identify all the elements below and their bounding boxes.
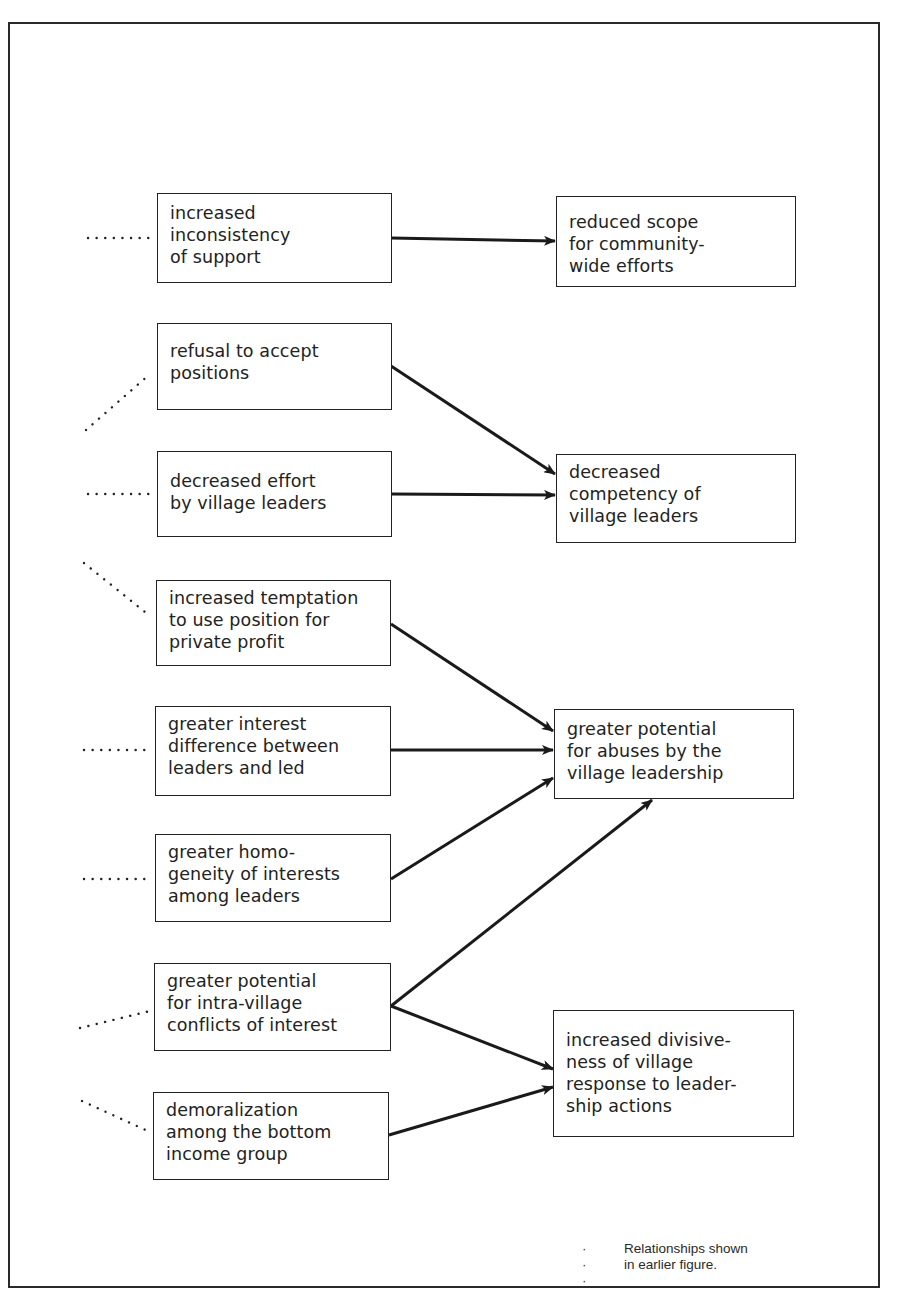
node-text-line: decreased effort [170,470,381,492]
arrow-demoralization-to-divisiveness [389,1087,553,1135]
legend-text: Relationships shown in earlier figure. [624,1241,748,1273]
node-text-line: private profit [169,631,380,653]
node-text-line: for abuses by the [567,740,783,762]
node-text-line: village leadership [567,762,783,784]
node-greater-interest-difference: greater interest difference between lead… [155,706,391,796]
node-text-line: village leaders [569,505,785,527]
legend-line: Relationships shown [624,1241,748,1257]
node-text-line: for intra-village [167,992,380,1014]
node-increased-temptation-private-profit: increased temptation to use position for… [156,580,391,666]
dotted-input-conflicts [80,1011,150,1028]
node-text-line: ship actions [566,1095,783,1117]
arrow-homogeneity-to-abuses [391,778,553,879]
dotted-input-temptation [84,563,150,616]
node-text-line: to use position for [169,609,380,631]
node-text-line: ness of village [566,1051,783,1073]
node-greater-homogeneity-of-interests: greater homo- geneity of interests among… [155,834,391,922]
legend-line: in earlier figure. [624,1257,748,1273]
node-text-line: of support [170,246,381,268]
node-text-line: competency of [569,483,785,505]
node-text-line: increased divisive- [566,1029,783,1051]
node-text-line: greater interest [168,713,380,735]
arrow-effort-to-competency [391,494,555,495]
node-text-line: greater potential [567,718,783,740]
node-greater-potential-for-abuses: greater potential for abuses by the vill… [554,709,794,799]
node-increased-divisiveness: increased divisive- ness of village resp… [553,1010,794,1137]
node-text-line: response to leader- [566,1073,783,1095]
arrow-temptation-to-abuses [391,624,553,731]
dotted-line-legend-icon: · · · [582,1241,588,1289]
node-text-line: inconsistency [170,224,381,246]
node-text-line: greater homo- [168,841,380,863]
node-text-line: leaders and led [168,757,380,779]
node-text-line: income group [166,1143,378,1165]
arrow-conflicts-to-abuses [391,800,652,1006]
node-text-line: increased temptation [169,587,380,609]
node-text-line: demoralization [166,1099,378,1121]
node-decreased-competency-of-village-leaders: decreased competency of village leaders [556,454,796,543]
node-text-line: decreased [569,461,785,483]
arrow-inconsistency-to-reduced-scope [391,238,555,241]
node-reduced-scope-community-wide-efforts: reduced scope for community- wide effort… [556,196,796,287]
node-text-line: reduced scope [569,211,785,233]
node-refusal-to-accept-positions: refusal to accept positions [157,323,392,410]
node-text-line: among the bottom [166,1121,378,1143]
node-text-line: positions [170,362,381,384]
node-demoralization-bottom-income-group: demoralization among the bottom income g… [153,1092,389,1180]
node-text-line: refusal to accept [170,340,381,362]
node-text-line: by village leaders [170,492,381,514]
node-increased-inconsistency-of-support: increased inconsistency of support [157,193,392,283]
node-text-line: among leaders [168,885,380,907]
arrow-refusal-to-competency [391,366,555,474]
node-text-line: for community- [569,233,785,255]
node-text-line: conflicts of interest [167,1014,380,1036]
node-greater-potential-intra-village-conflicts: greater potential for intra-village conf… [154,963,391,1051]
node-text-line: increased [170,202,381,224]
node-text-line: geneity of interests [168,863,380,885]
node-text-line: greater potential [167,970,380,992]
node-text-line: difference between [168,735,380,757]
arrow-conflicts-to-divisiveness [391,1006,553,1069]
node-text-line: wide efforts [569,255,785,277]
node-decreased-effort-by-village-leaders: decreased effort by village leaders [157,451,392,537]
dotted-input-demoralization [82,1101,150,1132]
dotted-input-refusal [86,374,150,430]
